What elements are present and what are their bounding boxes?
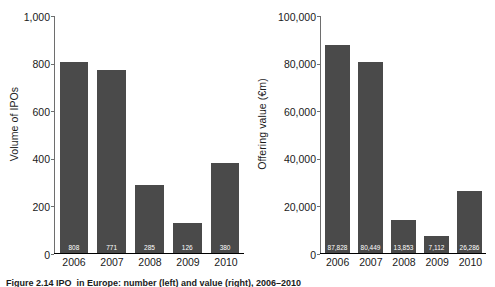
x-axis-tick-label: 2008 bbox=[131, 256, 169, 268]
y-axis-tick-mark bbox=[317, 16, 320, 17]
y-axis-tick-label: 0 bbox=[310, 250, 320, 261]
bar: 26,286 bbox=[457, 191, 482, 253]
y-axis-tick-label: 60,000 bbox=[284, 107, 320, 118]
y-axis-label-left: Volume of IPOs bbox=[6, 0, 22, 248]
y-axis-tick-label: 400 bbox=[32, 155, 54, 166]
y-axis-tick-label: 80,000 bbox=[284, 59, 320, 70]
plot-area-right: 87,82880,44913,8537,11226,286 020,00040,… bbox=[320, 16, 486, 254]
y-axis-tick-mark bbox=[51, 206, 54, 207]
bar: 126 bbox=[173, 223, 202, 253]
x-axis-tick-label: 2008 bbox=[387, 256, 420, 268]
bar-slot: 285 bbox=[131, 16, 169, 253]
bar-value-label: 126 bbox=[173, 245, 202, 252]
figure-two-panel-bar-charts: Volume of IPOs 808771285126380 020040060… bbox=[0, 0, 495, 287]
y-axis-tick-label: 100,000 bbox=[278, 12, 320, 23]
y-axis-tick-label: 600 bbox=[32, 107, 54, 118]
bar-value-label: 380 bbox=[211, 245, 240, 252]
bar: 13,853 bbox=[391, 220, 416, 253]
y-axis-tick-label: 800 bbox=[32, 59, 54, 70]
bar: 380 bbox=[211, 163, 240, 253]
bar-slot: 771 bbox=[93, 16, 131, 253]
bar-group-right: 87,82880,44913,8537,11226,286 bbox=[321, 16, 486, 253]
plot-area-left: 808771285126380 02004006008001,000 bbox=[54, 16, 244, 254]
x-axis-tick-label: 2006 bbox=[321, 256, 354, 268]
y-axis-tick-mark bbox=[51, 111, 54, 112]
x-axis-line-left bbox=[54, 253, 244, 254]
y-axis-tick-mark bbox=[317, 111, 320, 112]
x-axis-tick-label: 2007 bbox=[93, 256, 131, 268]
bar-slot: 808 bbox=[55, 16, 93, 253]
y-axis-tick-mark bbox=[317, 206, 320, 207]
bar-slot: 80,449 bbox=[354, 16, 387, 253]
bar-group-left: 808771285126380 bbox=[55, 16, 244, 253]
bar-value-label: 7,112 bbox=[424, 245, 449, 252]
x-axis-tick-label: 2010 bbox=[207, 256, 245, 268]
bar: 808 bbox=[60, 62, 89, 253]
y-axis-tick-label: 20,000 bbox=[284, 202, 320, 213]
y-axis-tick-mark bbox=[51, 159, 54, 160]
y-axis-tick-label: 0 bbox=[44, 250, 54, 261]
x-axis-line-right bbox=[320, 253, 486, 254]
bar-value-label: 285 bbox=[135, 245, 164, 252]
bar-value-label: 80,449 bbox=[358, 245, 383, 252]
y-axis-tick-label: 200 bbox=[32, 202, 54, 213]
y-axis-tick-mark bbox=[51, 64, 54, 65]
bar: 285 bbox=[135, 185, 164, 253]
bar-value-label: 771 bbox=[97, 245, 126, 252]
bar: 87,828 bbox=[325, 45, 350, 253]
bar-value-label: 808 bbox=[60, 245, 89, 252]
bar-value-label: 26,286 bbox=[457, 245, 482, 252]
y-axis-label-right: Offering value (€m) bbox=[254, 0, 270, 248]
y-axis-tick-mark bbox=[317, 64, 320, 65]
x-axis-tick-label: 2009 bbox=[169, 256, 207, 268]
bar-slot: 13,853 bbox=[387, 16, 420, 253]
bar: 7,112 bbox=[424, 236, 449, 253]
bar-value-label: 13,853 bbox=[391, 245, 416, 252]
y-axis-tick-label: 40,000 bbox=[284, 155, 320, 166]
x-axis-tick-label: 2010 bbox=[454, 256, 487, 268]
x-axis-tick-labels-right: 20062007200820092010 bbox=[321, 256, 487, 268]
bar-value-label: 87,828 bbox=[325, 245, 350, 252]
bar-slot: 7,112 bbox=[420, 16, 453, 253]
bar-slot: 126 bbox=[168, 16, 206, 253]
bar: 80,449 bbox=[358, 62, 383, 253]
chart-panel-offering-value: Offering value (€m) 87,82880,44913,8537,… bbox=[252, 0, 495, 275]
x-axis-tick-labels-left: 20062007200820092010 bbox=[55, 256, 245, 268]
chart-panel-volume-of-ipos: Volume of IPOs 808771285126380 020040060… bbox=[0, 0, 252, 275]
x-axis-tick-label: 2009 bbox=[421, 256, 454, 268]
y-axis-tick-mark bbox=[51, 254, 54, 255]
y-axis-tick-label: 1,000 bbox=[24, 12, 54, 23]
y-axis-tick-mark bbox=[51, 16, 54, 17]
bar-slot: 380 bbox=[206, 16, 244, 253]
bar: 771 bbox=[97, 70, 126, 253]
y-axis-tick-mark bbox=[317, 159, 320, 160]
x-axis-tick-label: 2006 bbox=[55, 256, 93, 268]
x-axis-tick-label: 2007 bbox=[354, 256, 387, 268]
bar-slot: 87,828 bbox=[321, 16, 354, 253]
figure-caption: Figure 2.14 IPO in Europe: number (left)… bbox=[6, 278, 426, 287]
y-axis-tick-mark bbox=[317, 254, 320, 255]
bar-slot: 26,286 bbox=[453, 16, 486, 253]
